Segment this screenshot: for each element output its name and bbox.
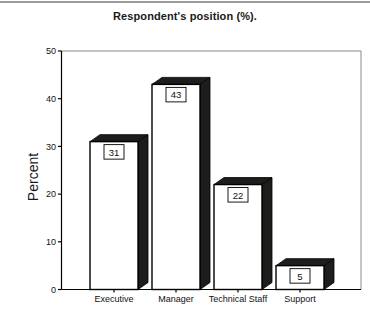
bar-front-face [90, 142, 138, 290]
bar-top-face [90, 135, 148, 142]
bar-top-face [214, 178, 272, 185]
y-tick-label: 30 [46, 142, 56, 152]
x-category-label: Executive [94, 294, 133, 304]
bar-chart: 0102030405031Executive43Manager22Technic… [0, 0, 370, 317]
y-tick-label: 40 [46, 94, 56, 104]
y-tick-label: 20 [46, 189, 56, 199]
y-tick-label: 10 [46, 237, 56, 247]
bar-top-face [276, 259, 334, 266]
bar-top-face [152, 77, 210, 84]
bar-side-face [200, 77, 210, 289]
y-tick-label: 50 [46, 46, 56, 56]
bar-front-face [152, 84, 200, 289]
bar-side-face [138, 135, 148, 290]
bar-side-face [262, 178, 272, 290]
bar-value-label: 43 [171, 89, 182, 100]
y-tick-label: 0 [51, 285, 56, 295]
bar-value-label: 22 [233, 190, 244, 201]
bar-value-label: 31 [109, 147, 120, 158]
x-category-label: Manager [158, 294, 194, 304]
x-category-label: Support [284, 294, 316, 304]
x-category-label: Technical Staff [209, 294, 268, 304]
bar-value-label: 5 [297, 271, 302, 282]
page: Respondent's position (%). Percent 01020… [0, 0, 370, 317]
